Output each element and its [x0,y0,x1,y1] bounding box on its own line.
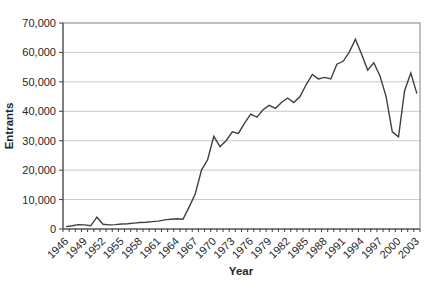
y-tick-label: 10,000 [22,194,56,206]
y-tick-label: 40,000 [22,105,56,117]
y-axis-title: Entrants [3,103,15,150]
y-tick-label: 30,000 [22,135,56,147]
y-tick-label: 20,000 [22,164,56,176]
x-axis-title: Year [229,265,254,277]
y-tick-label: 60,000 [22,46,56,58]
x-tick-label: 2003 [396,235,422,261]
plot-area: 010,00020,00030,00040,00050,00060,00070,… [22,17,421,261]
line-chart: 010,00020,00030,00040,00050,00060,00070,… [0,0,434,289]
y-tick-label: 0 [50,223,56,235]
y-tick-label: 70,000 [22,17,56,29]
chart-canvas: 010,00020,00030,00040,00050,00060,00070,… [0,0,434,289]
data-series-line [66,39,417,226]
plot-border [63,23,420,229]
y-tick-label: 50,000 [22,76,56,88]
